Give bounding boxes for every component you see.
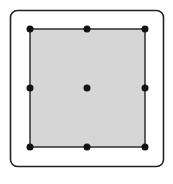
- handle-top-center-icon[interactable]: [84, 26, 91, 33]
- handle-bottom-right-icon[interactable]: [142, 144, 149, 151]
- handle-bottom-center-icon[interactable]: [84, 144, 91, 151]
- handle-bottom-left-icon[interactable]: [27, 144, 34, 151]
- handle-middle-right-icon[interactable]: [142, 85, 149, 92]
- diagram-canvas: [0, 0, 173, 184]
- handle-center-icon[interactable]: [84, 85, 91, 92]
- handle-top-left-icon[interactable]: [27, 26, 34, 33]
- handle-top-right-icon[interactable]: [142, 26, 149, 33]
- handle-middle-left-icon[interactable]: [27, 85, 34, 92]
